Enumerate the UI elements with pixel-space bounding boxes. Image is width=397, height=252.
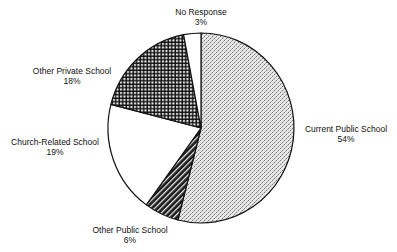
label-other-private-name: Other Private School (33, 66, 111, 76)
label-current-public-pct: 54% (305, 134, 387, 144)
label-church-related-pct: 19% (11, 147, 99, 157)
label-church-related: Church-Related School 19% (11, 137, 99, 157)
label-other-private: Other Private School 18% (33, 66, 111, 86)
label-no-response: No Response 3% (175, 7, 227, 27)
label-other-private-pct: 18% (33, 76, 111, 86)
label-no-response-name: No Response (175, 7, 227, 17)
label-current-public: Current Public School 54% (305, 124, 387, 144)
label-other-public-pct: 6% (92, 235, 167, 245)
label-no-response-pct: 3% (175, 17, 227, 27)
label-other-public: Other Public School 6% (92, 225, 167, 245)
label-other-public-name: Other Public School (92, 225, 167, 235)
pie-slices (108, 33, 294, 223)
label-church-related-name: Church-Related School (11, 137, 99, 147)
label-current-public-name: Current Public School (305, 124, 387, 134)
